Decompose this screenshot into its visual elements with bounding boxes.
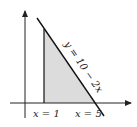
- left-bound-label: x = 1: [33, 108, 60, 119]
- right-bound-label: x = 5: [75, 108, 102, 119]
- region-diagram: y = 10 − 2x x = 1 x = 5: [0, 0, 137, 127]
